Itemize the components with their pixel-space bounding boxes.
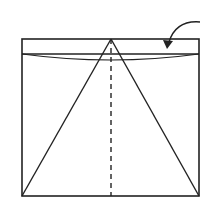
arrowhead-icon [163,40,173,49]
origami-diagram [0,0,218,209]
right-diagonal [111,39,199,196]
left-diagonal [22,39,111,196]
paper-square [22,39,199,196]
